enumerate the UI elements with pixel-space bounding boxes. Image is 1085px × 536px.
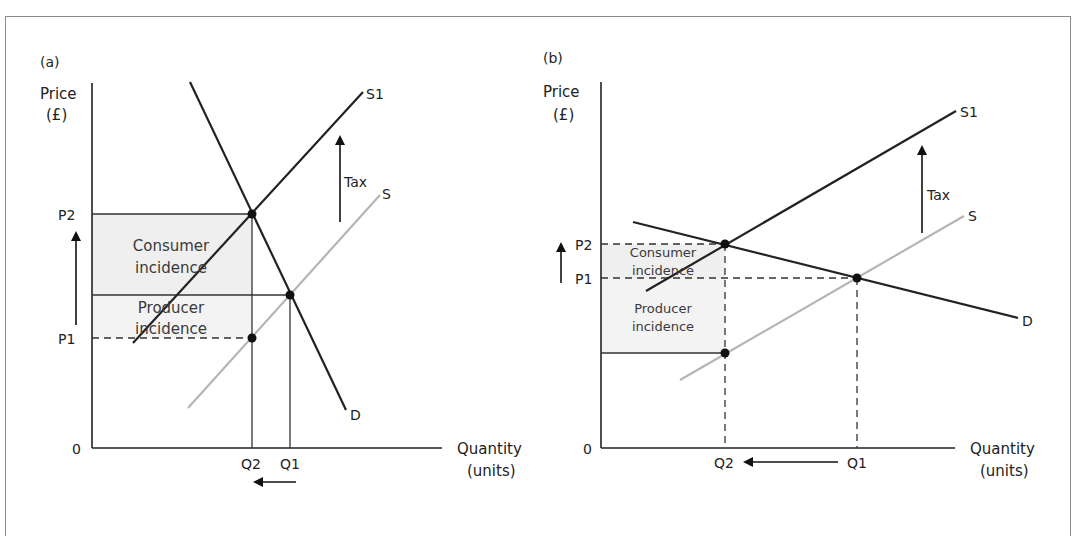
origin-label: 0 xyxy=(72,441,81,457)
equilibrium-point-original xyxy=(853,274,862,283)
y-axis-unit: (£) xyxy=(46,106,67,124)
y-axis-unit: (£) xyxy=(553,106,574,124)
producer-price-point xyxy=(721,349,730,358)
y-axis-label: Price xyxy=(543,83,580,101)
q2-label: Q2 xyxy=(241,456,261,472)
producer-incidence-label: Producer xyxy=(634,301,692,316)
panel-a: (a) Price (£) Tax S1 S D P2 P1 0 xyxy=(40,54,522,482)
x-axis-label: Quantity xyxy=(970,440,1035,458)
x-axis-unit: (units) xyxy=(980,462,1029,480)
p1-label: P1 xyxy=(58,331,75,347)
consumer-incidence-label-2: incidence xyxy=(135,259,207,277)
producer-incidence-label-2: incidence xyxy=(632,319,694,334)
consumer-incidence-label: Consumer xyxy=(630,245,697,260)
s-label: S xyxy=(968,208,977,224)
panel-a-label: (a) xyxy=(40,54,60,70)
tax-label: Tax xyxy=(926,187,950,203)
s1-label: S1 xyxy=(366,86,384,102)
p1-label: P1 xyxy=(575,271,592,287)
consumer-incidence-label: Consumer xyxy=(133,237,210,255)
consumer-incidence-label-2: incidence xyxy=(632,263,694,278)
tax-label: Tax xyxy=(343,174,367,190)
panel-b: (b) Price (£) Tax S1 S D P2 P1 0 xyxy=(543,50,1035,480)
d-label: D xyxy=(1022,313,1033,329)
x-axis-label: Quantity xyxy=(457,440,522,458)
producer-price-point xyxy=(248,334,257,343)
origin-label: 0 xyxy=(583,441,592,457)
producer-incidence-label: Producer xyxy=(138,299,205,317)
equilibrium-point-original xyxy=(286,291,295,300)
equilibrium-point-new xyxy=(721,240,730,249)
q1-label: Q1 xyxy=(280,456,300,472)
q1-label: Q1 xyxy=(847,455,867,471)
d-label: D xyxy=(350,407,361,423)
p2-label: P2 xyxy=(58,207,75,223)
equilibrium-point-new xyxy=(248,210,257,219)
x-axis-unit: (units) xyxy=(467,462,516,480)
producer-incidence-label-2: incidence xyxy=(135,320,207,338)
panel-b-label: (b) xyxy=(543,50,563,66)
q2-label: Q2 xyxy=(714,455,734,471)
s-label: S xyxy=(382,186,391,202)
y-axis-label: Price xyxy=(40,85,77,103)
p2-label: P2 xyxy=(575,237,592,253)
s1-label: S1 xyxy=(960,104,978,120)
